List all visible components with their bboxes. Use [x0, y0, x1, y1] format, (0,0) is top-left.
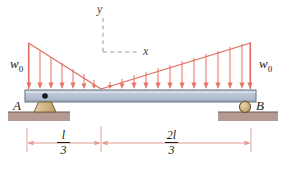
- load-label-left: w0: [10, 57, 23, 74]
- dimension-label-right-span: 2l 3: [165, 129, 178, 156]
- diagram-canvas: [0, 0, 285, 172]
- coordinate-axes: [103, 18, 139, 52]
- load-arrows-right: [110, 42, 250, 85]
- beam: [25, 90, 256, 102]
- load-label-right: w0: [259, 57, 272, 74]
- support-b-label: B: [256, 99, 264, 112]
- pin-marker: [42, 93, 48, 99]
- dimension-label-left-span: l 3: [57, 129, 70, 156]
- ground-right: [218, 112, 278, 121]
- load-arrowheads-left: [26, 83, 96, 90]
- ground-left: [8, 112, 70, 121]
- beam-load-diagram: w0 w0 A B y x l 3 2l 3: [0, 0, 285, 172]
- support-a-pin: [34, 102, 56, 112]
- support-b-roller: [239, 101, 250, 112]
- load-arrowheads-right: [108, 83, 253, 90]
- axis-x-label: x: [143, 45, 148, 57]
- support-a-label: A: [13, 99, 21, 112]
- axis-y-label: y: [97, 3, 102, 15]
